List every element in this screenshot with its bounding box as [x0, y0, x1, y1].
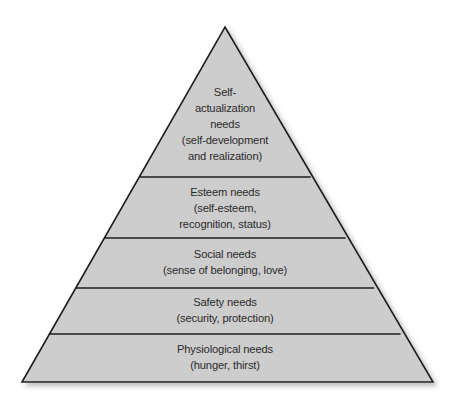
tier-label-line: Esteem needs	[190, 186, 260, 198]
tier-label-line: needs	[210, 118, 240, 130]
tier-label-line: (sense of belonging, love)	[163, 264, 288, 276]
tier-label-line: Social needs	[194, 248, 257, 260]
tier-label-line: (security, protection)	[176, 312, 274, 324]
tier-label-line: actualization	[195, 102, 255, 114]
tier-label-line: (hunger, thirst)	[190, 359, 260, 371]
tier-label-line: (self-esteem,	[194, 202, 257, 214]
pyramid-svg-canvas: Self- actualization needs (self-developm…	[0, 0, 457, 404]
tier-label-line: Physiological needs	[177, 343, 274, 355]
tier-label-line: recognition, status)	[179, 218, 271, 230]
tier-label-line: and realization)	[188, 150, 263, 162]
tier-label-line: Safety needs	[193, 296, 257, 308]
tier-label-line: (self-development	[182, 134, 269, 146]
tier-label-line: Self-	[214, 86, 237, 98]
maslow-pyramid-diagram: Self- actualization needs (self-developm…	[0, 0, 457, 404]
